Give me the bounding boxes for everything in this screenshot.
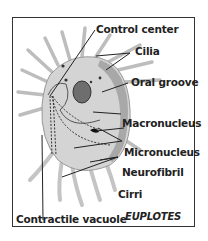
label-control-center: Control center — [96, 23, 178, 35]
label-micronucleus: Micronucleus — [124, 146, 200, 158]
label-cilia: Cilia — [135, 45, 160, 57]
label-neurofibril: Neurofibril — [122, 166, 184, 178]
label-oral-groove: Oral groove — [131, 76, 198, 88]
macronucleus — [73, 81, 91, 103]
label-macronucleus: Macronucleus — [122, 117, 201, 129]
diagram-title: EUPLOTES — [125, 211, 181, 222]
label-cirri: Cirri — [118, 188, 142, 200]
label-contractile-vacuole: Contractile vacuole — [16, 213, 127, 225]
